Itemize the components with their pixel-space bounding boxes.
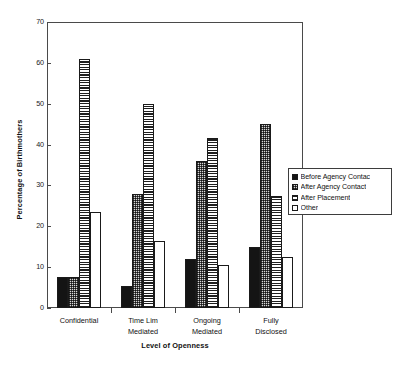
x-category-label: FullyDisclosed bbox=[231, 316, 311, 337]
bar[interactable] bbox=[143, 104, 154, 308]
x-tick-mark bbox=[239, 308, 240, 313]
bar[interactable] bbox=[196, 161, 207, 308]
y-axis-title: Percentage of Birthmothers bbox=[15, 115, 24, 225]
x-category-label-line: Disclosed bbox=[231, 327, 311, 338]
legend-item[interactable]: After Agency Contact bbox=[292, 182, 391, 192]
legend-swatch-icon bbox=[292, 195, 298, 201]
chart-legend[interactable]: Before Agency ContacAfter Agency Contact… bbox=[288, 168, 392, 215]
legend-item[interactable]: After Placement bbox=[292, 193, 391, 203]
y-tick-mark bbox=[47, 185, 51, 186]
x-axis-title: Level of Openness bbox=[47, 341, 303, 350]
y-tick-label: 40 bbox=[4, 141, 44, 148]
bar[interactable] bbox=[121, 286, 132, 308]
y-tick-label: 20 bbox=[4, 223, 44, 230]
legend-item[interactable]: Before Agency Contac bbox=[292, 172, 391, 182]
y-tick-mark bbox=[47, 104, 51, 105]
x-category-label-line: Fully bbox=[231, 316, 311, 327]
bar[interactable] bbox=[90, 212, 101, 308]
y-tick-label: 70 bbox=[4, 18, 44, 25]
bar[interactable] bbox=[154, 241, 165, 308]
legend-swatch-icon bbox=[292, 184, 298, 190]
y-tick-mark bbox=[47, 308, 51, 309]
bar[interactable] bbox=[282, 257, 293, 308]
bar-chart: 010203040506070 Percentage of Birthmothe… bbox=[0, 0, 404, 370]
bar[interactable] bbox=[260, 124, 271, 308]
legend-swatch-icon bbox=[292, 205, 298, 211]
bar[interactable] bbox=[207, 138, 218, 308]
legend-label: Before Agency Contac bbox=[301, 173, 371, 181]
legend-label: After Agency Contact bbox=[301, 183, 367, 191]
legend-swatch-icon bbox=[292, 174, 298, 180]
legend-label: After Placement bbox=[301, 194, 351, 202]
y-tick-mark bbox=[47, 226, 51, 227]
x-tick-mark bbox=[175, 308, 176, 313]
bar[interactable] bbox=[68, 277, 79, 308]
y-tick-mark bbox=[47, 267, 51, 268]
y-tick-mark bbox=[47, 145, 51, 146]
bar[interactable] bbox=[79, 59, 90, 308]
y-tick-label: 0 bbox=[4, 304, 44, 311]
bar[interactable] bbox=[185, 259, 196, 308]
bar[interactable] bbox=[57, 277, 68, 308]
x-tick-mark bbox=[111, 308, 112, 313]
y-tick-mark bbox=[47, 63, 51, 64]
y-tick-label: 50 bbox=[4, 100, 44, 107]
y-tick-label: 10 bbox=[4, 264, 44, 271]
bar[interactable] bbox=[271, 196, 282, 308]
legend-label: Other bbox=[301, 204, 319, 212]
bar[interactable] bbox=[218, 265, 229, 308]
y-tick-label: 30 bbox=[4, 182, 44, 189]
legend-item[interactable]: Other bbox=[292, 203, 391, 213]
bar[interactable] bbox=[132, 194, 143, 308]
y-tick-label: 60 bbox=[4, 59, 44, 66]
bar[interactable] bbox=[249, 247, 260, 308]
